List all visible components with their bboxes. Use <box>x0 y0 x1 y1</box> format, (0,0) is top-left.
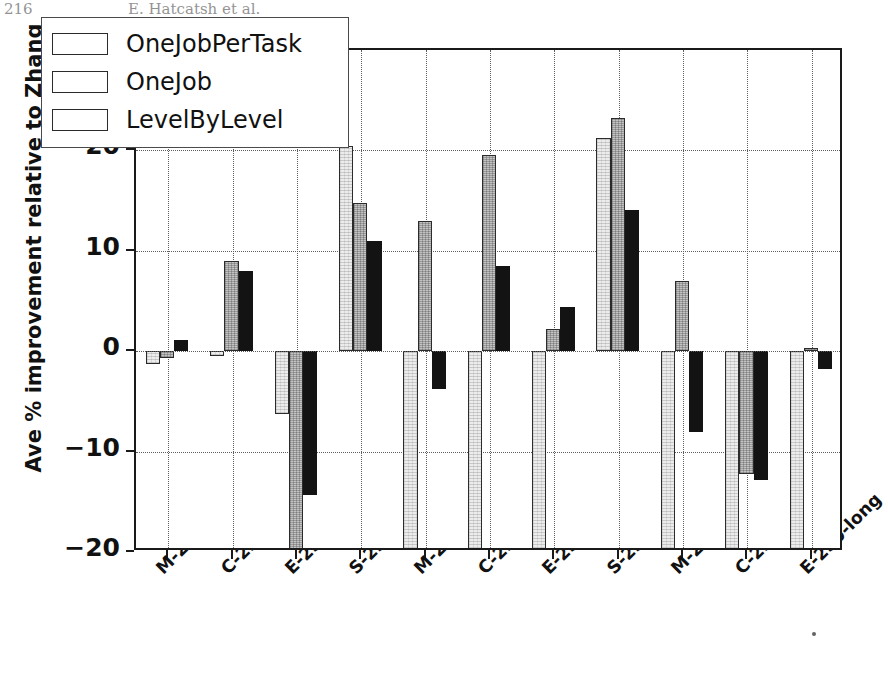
legend-item: LevelByLevel <box>52 101 338 139</box>
y-axis-tick-label: −20 <box>0 533 120 562</box>
bar <box>818 351 832 369</box>
bar <box>689 351 703 431</box>
bar <box>367 241 381 351</box>
y-axis-tick-label: −10 <box>0 433 120 462</box>
legend-label: OneJobPerTask <box>126 32 302 56</box>
bar <box>224 261 238 351</box>
y-gridline <box>136 150 840 151</box>
bar <box>289 351 303 548</box>
y-axis-tick <box>126 550 134 552</box>
bar <box>174 340 188 351</box>
bar <box>496 266 510 351</box>
bar <box>725 351 739 548</box>
bar <box>625 210 639 352</box>
bar <box>303 351 317 495</box>
x-gridline <box>554 50 555 548</box>
bar <box>596 138 610 351</box>
bar <box>754 351 768 480</box>
y-axis-tick-label: 10 <box>0 232 120 261</box>
bar <box>546 329 560 351</box>
bar <box>418 221 432 352</box>
scan-artifact-dot <box>812 632 816 636</box>
legend-label: LevelByLevel <box>126 108 283 132</box>
bar-chart-figure: Ave % improvement relative to Zhang −20−… <box>0 0 888 699</box>
bar <box>239 271 253 351</box>
bar <box>675 281 689 351</box>
legend-label: OneJob <box>126 70 212 94</box>
bar <box>661 351 675 548</box>
bar <box>790 351 804 548</box>
bar <box>353 203 367 352</box>
zero-reference-line <box>136 351 840 352</box>
bar <box>160 351 174 358</box>
bar <box>560 307 574 351</box>
legend-item: OneJob <box>52 63 338 101</box>
legend-swatch-levelbylevel <box>52 109 108 131</box>
bar <box>611 118 625 351</box>
bar <box>339 146 353 351</box>
x-gridline <box>812 50 813 548</box>
chart-legend: OneJobPerTask OneJob LevelByLevel <box>41 17 349 148</box>
bar <box>146 351 160 364</box>
y-axis-tick <box>126 349 134 351</box>
legend-item: OneJobPerTask <box>52 25 338 63</box>
bar <box>532 351 546 548</box>
bar <box>468 351 482 548</box>
legend-swatch-onejobpertask <box>52 33 108 55</box>
bar <box>275 351 289 414</box>
bar <box>739 351 753 473</box>
bar <box>482 155 496 351</box>
y-axis-tick-label: 0 <box>0 332 120 361</box>
y-axis-tick <box>126 450 134 452</box>
y-axis-tick <box>126 148 134 150</box>
bar <box>432 351 446 389</box>
bar <box>403 351 417 548</box>
legend-swatch-onejob <box>52 71 108 93</box>
y-axis-tick <box>126 249 134 251</box>
